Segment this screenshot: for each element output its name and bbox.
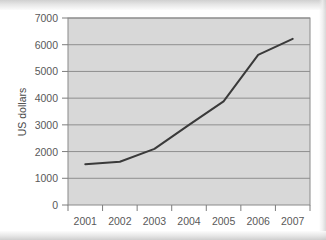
y-axis-tick-label: 7000 (35, 12, 59, 24)
x-axis-tick-label: 2002 (108, 215, 132, 227)
x-axis-tick-label: 2005 (212, 215, 236, 227)
y-axis-tick-label: 0 (52, 199, 58, 211)
line-chart-figure: 01000200030004000500060007000 2001200220… (0, 0, 326, 240)
x-axis-tick-label: 2001 (74, 215, 98, 227)
x-axis-tick-label: 2007 (281, 215, 305, 227)
chart-canvas: 01000200030004000500060007000 2001200220… (0, 0, 326, 240)
plot-area-background (68, 18, 310, 205)
x-axis-tick-label: 2003 (143, 215, 167, 227)
y-axis-tick-label: 4000 (35, 92, 59, 104)
y-axis-tick-label: 6000 (35, 39, 59, 51)
x-axis-tick-label: 2004 (177, 215, 201, 227)
y-axis-tick-label: 5000 (35, 65, 59, 77)
x-axis-tick-label: 2006 (246, 215, 270, 227)
y-axis-title: US dollars (16, 88, 28, 136)
x-axis: 2001200220032004200520062007 (68, 205, 310, 227)
y-axis-tick-label: 2000 (35, 146, 59, 158)
y-axis: 01000200030004000500060007000 (35, 12, 68, 211)
y-axis-tick-label: 3000 (35, 119, 59, 131)
y-axis-tick-label: 1000 (35, 172, 59, 184)
